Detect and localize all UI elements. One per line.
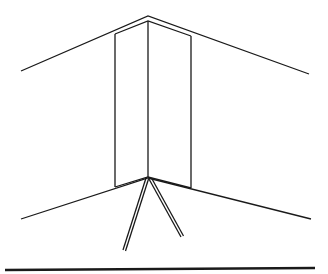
leg-left (123, 178, 149, 251)
ceiling-inner-line (115, 21, 191, 36)
corner-diagram (0, 0, 328, 274)
floor-outer-line (21, 178, 311, 219)
leg-right (149, 178, 184, 237)
ceiling-outer-line (21, 16, 309, 74)
ground-line (5, 268, 315, 270)
diagram-svg (0, 0, 328, 274)
